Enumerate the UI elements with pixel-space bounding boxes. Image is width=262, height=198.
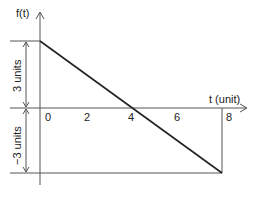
chart-svg: f(t) t (unit) 0 2 4 6 8 3 units −3 units bbox=[0, 0, 262, 198]
x-tick-8: 8 bbox=[226, 111, 232, 123]
x-axis-label: t (unit) bbox=[209, 93, 240, 105]
chart: f(t) t (unit) 0 2 4 6 8 3 units −3 units bbox=[0, 0, 262, 198]
y-axis-label: f(t) bbox=[16, 7, 29, 19]
lower-dimension-label: −3 units bbox=[11, 126, 23, 165]
x-tick-4: 4 bbox=[128, 111, 134, 123]
upper-dimension-label: 3 units bbox=[11, 59, 23, 92]
x-tick-6: 6 bbox=[174, 111, 180, 123]
function-line bbox=[40, 41, 222, 173]
x-tick-0: 0 bbox=[45, 111, 51, 123]
x-tick-2: 2 bbox=[84, 111, 90, 123]
